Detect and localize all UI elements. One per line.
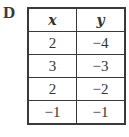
table-row: 3 −3: [28, 55, 125, 78]
header-x: x: [28, 8, 77, 32]
table-row: 2 −2: [28, 78, 125, 101]
table-row: 2 −4: [28, 32, 125, 55]
table-header-row: x y: [28, 8, 125, 32]
header-y: y: [77, 8, 126, 32]
cell-x: 3: [28, 55, 77, 78]
table-row: −1 −1: [28, 101, 125, 125]
cell-y: −1: [77, 101, 126, 125]
xy-values-table: x y 2 −4 3 −3 2 −2 −1 −1: [27, 7, 126, 125]
cell-x: 2: [28, 32, 77, 55]
answer-option-label: D: [3, 3, 15, 23]
cell-y: −2: [77, 78, 126, 101]
cell-y: −3: [77, 55, 126, 78]
cell-y: −4: [77, 32, 126, 55]
cell-x: −1: [28, 101, 77, 125]
cell-x: 2: [28, 78, 77, 101]
